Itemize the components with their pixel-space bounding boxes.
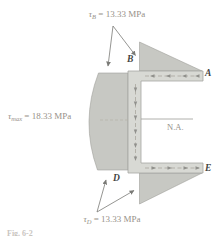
tau-max-subscript: max	[11, 115, 22, 122]
shear-stress-figure: τB = 13.33 MPa τmax = 18.33 MPa τD = 13.…	[0, 0, 222, 236]
channel-section-outline	[128, 71, 203, 173]
tau-B-leader-to-parabola	[108, 26, 113, 66]
tau-B-leader-to-point-B	[113, 26, 136, 56]
tau-max-value: = 18.33 MPa	[24, 111, 71, 121]
tau-D-label: τD = 13.33 MPa	[67, 215, 157, 225]
web-stress-parabola	[89, 73, 128, 170]
tau-B-value: = 13.33 MPa	[98, 9, 145, 19]
figure-caption-partial: Fig. 6-2	[7, 230, 33, 236]
point-E-label: E	[205, 164, 211, 174]
tau-B-label: τB = 13.33 MPa	[72, 10, 162, 20]
point-B-label: B	[127, 55, 133, 65]
neutral-axis-label: N.A.	[167, 123, 184, 132]
tau-D-value: = 13.33 MPa	[94, 214, 141, 224]
point-D-label: D	[113, 174, 120, 184]
tau-D-subscript: D	[87, 218, 92, 225]
point-A-label: A	[205, 69, 211, 79]
tau-max-label: τmax = 18.33 MPa	[8, 112, 71, 122]
top-flange-stress-triangle	[140, 42, 203, 71]
tau-B-subscript: B	[92, 13, 96, 20]
bottom-flange-stress-triangle	[140, 173, 203, 204]
